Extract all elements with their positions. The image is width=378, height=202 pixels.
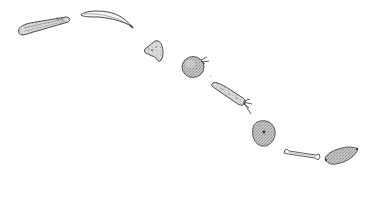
zucchini-icon bbox=[19, 17, 70, 35]
carrot-icon bbox=[212, 83, 252, 114]
cheese-wedge-icon bbox=[144, 41, 163, 61]
round-fruit-icon bbox=[253, 121, 276, 146]
sketch-scene bbox=[0, 0, 378, 202]
banana-icon bbox=[81, 11, 133, 28]
oval-bread-icon bbox=[325, 147, 358, 164]
bread-stick-icon bbox=[284, 149, 320, 160]
tomato-icon bbox=[182, 57, 211, 78]
